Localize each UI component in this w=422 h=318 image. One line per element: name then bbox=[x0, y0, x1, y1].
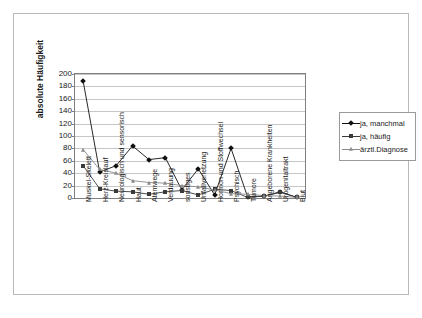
x-tick-label: Blut bbox=[299, 190, 306, 202]
legend-item: ja, häufig bbox=[342, 130, 412, 143]
x-tick-label: Herz-Kreislauf bbox=[102, 158, 109, 202]
y-tick-label: 160 bbox=[46, 95, 72, 103]
legend-triangle-icon bbox=[351, 149, 355, 153]
legend-square-icon bbox=[351, 136, 355, 140]
x-tick-label: Hormon und Stoffwechsel bbox=[217, 122, 224, 202]
legend-marker-sample bbox=[342, 144, 360, 155]
x-tick-label: sonstiges bbox=[184, 172, 191, 202]
y-tick-label: 140 bbox=[46, 107, 72, 115]
x-tick-label: Angeborene Krankheiten bbox=[266, 125, 273, 202]
y-tick-label: 60 bbox=[46, 157, 72, 165]
y-tick-label: 0 bbox=[46, 194, 72, 202]
legend-item: ja, manchmal bbox=[342, 117, 412, 130]
y-tick-label: 100 bbox=[46, 132, 72, 140]
x-tick-label: Tumore bbox=[250, 178, 257, 202]
x-tick-label: Verdauung bbox=[167, 168, 174, 202]
y-tick-label: 120 bbox=[46, 120, 72, 128]
x-tick-label: Neurologisch und sensorisch bbox=[118, 112, 125, 202]
y-tick-label: 40 bbox=[46, 169, 72, 177]
legend-label: ja, häufig bbox=[360, 132, 390, 141]
chart-legend: ja, manchmalja, häufigärztl.Diagnose bbox=[339, 112, 416, 161]
legend-diamond-icon bbox=[351, 123, 355, 127]
y-tick-label: 80 bbox=[46, 144, 72, 152]
y-tick-label: 200 bbox=[46, 70, 72, 78]
x-tick-label: Muskel-Skelett bbox=[85, 156, 92, 202]
y-tick-label: 20 bbox=[46, 182, 72, 190]
legend-label: ärztl.Diagnose bbox=[360, 145, 408, 154]
legend-label: ja, manchmal bbox=[360, 119, 405, 128]
x-tick-label: Haut bbox=[135, 187, 142, 202]
chart-figure: absolute Häufigkeit 20018016014012010080… bbox=[0, 0, 422, 318]
x-tick-label: Psychisch bbox=[233, 170, 240, 202]
x-tick-label: Atemwege bbox=[151, 169, 158, 202]
y-axis-ticks: 200180160140120100806040200 bbox=[42, 73, 72, 199]
chart-outer-frame: absolute Häufigkeit 20018016014012010080… bbox=[13, 13, 409, 295]
legend-marker-sample bbox=[342, 118, 360, 129]
x-tick-label: Unfallverletzung bbox=[200, 152, 207, 202]
legend-item: ärztl.Diagnose bbox=[342, 143, 412, 156]
x-tick-label: Urogenitaltrakt bbox=[282, 156, 289, 202]
legend-marker-sample bbox=[342, 131, 360, 142]
y-tick-label: 180 bbox=[46, 82, 72, 90]
